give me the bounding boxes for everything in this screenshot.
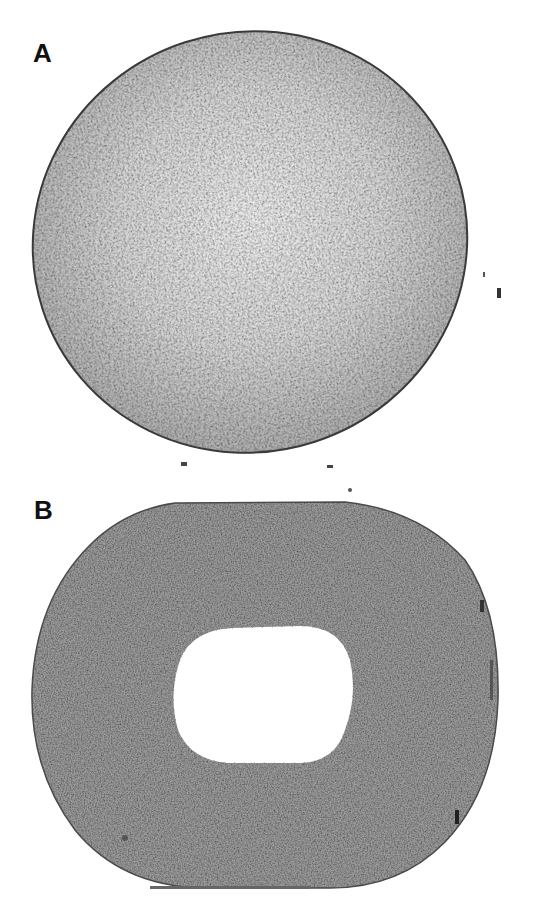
panel-label-b: B [34, 497, 53, 523]
figure: A B [0, 0, 536, 918]
panel-a-image [0, 0, 522, 509]
panel-label-a: A [33, 40, 52, 66]
figure-graphics [0, 0, 536, 918]
panel-b-image [32, 488, 498, 889]
